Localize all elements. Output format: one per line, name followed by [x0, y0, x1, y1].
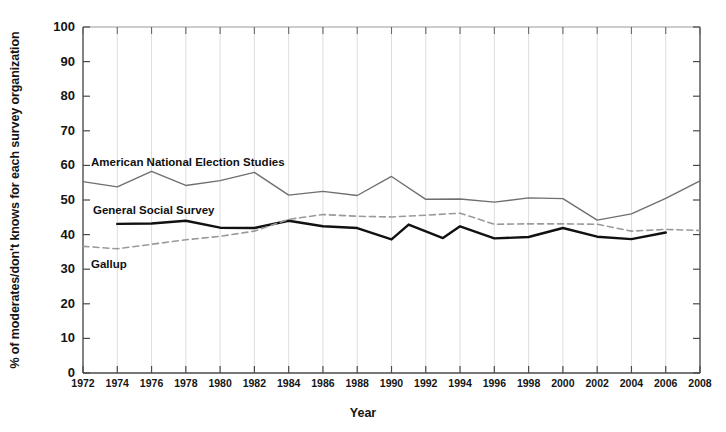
y-tick-label: 90 — [35, 55, 75, 68]
plot-area — [0, 0, 726, 432]
chart-figure: % of moderates/don't knows for each surv… — [0, 0, 726, 432]
x-axis-title: Year — [0, 406, 726, 420]
y-tick-label: 20 — [35, 297, 75, 310]
y-tick-label: 50 — [35, 193, 75, 206]
y-axis-title-text: % of moderates/don't knows for each surv… — [8, 31, 22, 368]
y-tick-label: 70 — [35, 124, 75, 137]
y-tick-label: 100 — [35, 20, 75, 33]
y-tick-label: 40 — [35, 228, 75, 241]
y-tick-label: 60 — [35, 158, 75, 171]
series-label-0: American National Election Studies — [91, 156, 285, 168]
x-tick-label: 2008 — [670, 378, 726, 389]
y-axis-title: % of moderates/don't knows for each surv… — [0, 0, 30, 400]
y-tick-label: 80 — [35, 89, 75, 102]
series-label-1: General Social Survey — [93, 204, 214, 216]
y-tick-label: 30 — [35, 262, 75, 275]
y-tick-label: 10 — [35, 331, 75, 344]
series-label-2: Gallup — [91, 258, 127, 270]
gridlines-group — [83, 27, 700, 373]
